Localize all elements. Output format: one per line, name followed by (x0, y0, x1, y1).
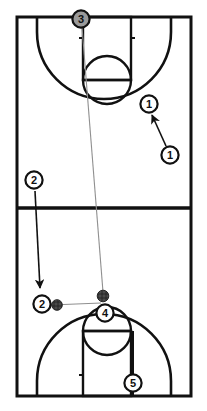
player-1-origin-token[interactable]: 1 (161, 146, 178, 163)
ball-icon-left (52, 300, 63, 311)
player-5-label: 5 (130, 377, 136, 389)
player-2-destination-label: 2 (39, 298, 45, 310)
player-2-destination-token[interactable]: 2 (33, 295, 50, 312)
player-3-token[interactable]: 3 (72, 10, 89, 27)
player-4-label: 4 (102, 307, 109, 319)
player-1-destination-label: 1 (146, 98, 152, 110)
player-2-origin-token[interactable]: 2 (25, 171, 42, 188)
player-5-token[interactable]: 5 (124, 374, 141, 391)
player-1-origin-label: 1 (167, 149, 173, 161)
player-4-token[interactable]: 4 (96, 304, 113, 321)
player-3-label: 3 (78, 13, 84, 25)
court-outline-group (17, 17, 191, 396)
ball-icon-key (97, 290, 109, 302)
player-1-destination-token[interactable]: 1 (140, 95, 157, 112)
player-2-origin-label: 2 (31, 174, 37, 186)
basketball-court-svg: 3 1 1 2 2 4 (0, 0, 207, 411)
play-diagram-canvas: 3 1 1 2 2 4 (0, 0, 207, 411)
